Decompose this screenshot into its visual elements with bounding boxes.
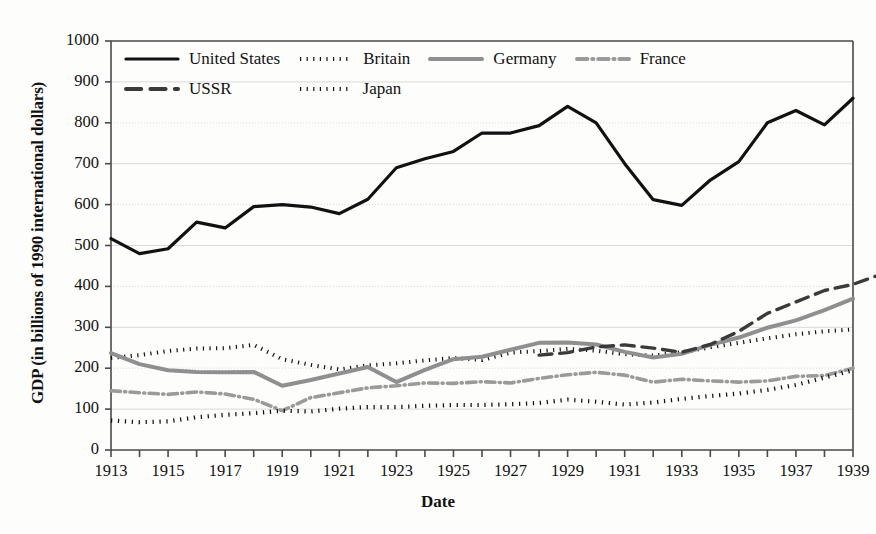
x-tick-label: 1937 [766, 461, 826, 481]
x-axis-title: Date [0, 492, 876, 512]
y-tick-label: 300 [43, 316, 99, 336]
legend-swatch-icon [298, 82, 354, 96]
legend-swatch-icon [428, 52, 484, 66]
y-tick-label: 500 [43, 235, 99, 255]
legend-item-germany[interactable]: Germany [428, 49, 556, 69]
y-tick-label: 800 [43, 112, 99, 132]
x-tick-label: 1917 [195, 461, 255, 481]
x-tick-label: 1921 [309, 461, 369, 481]
gdp-line-chart: GDP (in billions of 1990 international d… [0, 0, 876, 534]
legend-line-sample [428, 52, 484, 66]
legend-line-sample [575, 52, 631, 66]
y-tick-label: 0 [43, 439, 99, 459]
legend-label: Britain [363, 49, 410, 69]
legend-label: Japan [363, 79, 402, 99]
y-tick-label: 700 [43, 153, 99, 173]
legend-swatch-icon [575, 52, 631, 66]
legend-item-united-states[interactable]: United States [124, 49, 280, 69]
x-tick-label: 1915 [138, 461, 198, 481]
legend-label: USSR [189, 79, 232, 99]
series-line-japan [111, 370, 853, 422]
legend-label: United States [189, 49, 280, 69]
legend-swatch-icon [124, 82, 180, 96]
series-line-united-states [111, 98, 853, 253]
series-line-germany [111, 299, 853, 386]
legend-label: Germany [493, 49, 556, 69]
series-line-france [111, 368, 853, 411]
y-tick-label: 1000 [43, 30, 99, 50]
x-tick-label: 1935 [709, 461, 769, 481]
y-tick-label: 100 [43, 398, 99, 418]
y-tick-label: 900 [43, 71, 99, 91]
x-tick-label: 1919 [252, 461, 312, 481]
x-tick-label: 1931 [595, 461, 655, 481]
legend-row-secondary: USSRJapan [124, 74, 724, 104]
x-tick-label: 1929 [538, 461, 598, 481]
x-tick-label: 1925 [423, 461, 483, 481]
legend-line-sample [298, 52, 354, 66]
legend-item-france[interactable]: France [575, 49, 686, 69]
legend-item-britain[interactable]: Britain [298, 49, 410, 69]
x-tick-label: 1927 [481, 461, 541, 481]
x-tick-label: 1923 [366, 461, 426, 481]
chart-legend: United StatesBritainGermanyFrance USSRJa… [124, 44, 724, 104]
legend-item-ussr[interactable]: USSR [124, 79, 232, 99]
y-tick-label: 400 [43, 275, 99, 295]
x-tick-label: 1939 [823, 461, 876, 481]
legend-line-sample [124, 52, 180, 66]
y-tick-label: 200 [43, 357, 99, 377]
x-tick-label: 1933 [652, 461, 712, 481]
legend-item-japan[interactable]: Japan [298, 79, 402, 99]
y-tick-label: 600 [43, 194, 99, 214]
legend-line-sample [298, 82, 354, 96]
x-tick-label: 1913 [81, 461, 141, 481]
legend-swatch-icon [124, 52, 180, 66]
legend-line-sample [124, 82, 180, 96]
legend-label: France [640, 49, 686, 69]
legend-row-primary: United StatesBritainGermanyFrance [124, 44, 724, 74]
legend-swatch-icon [298, 52, 354, 66]
